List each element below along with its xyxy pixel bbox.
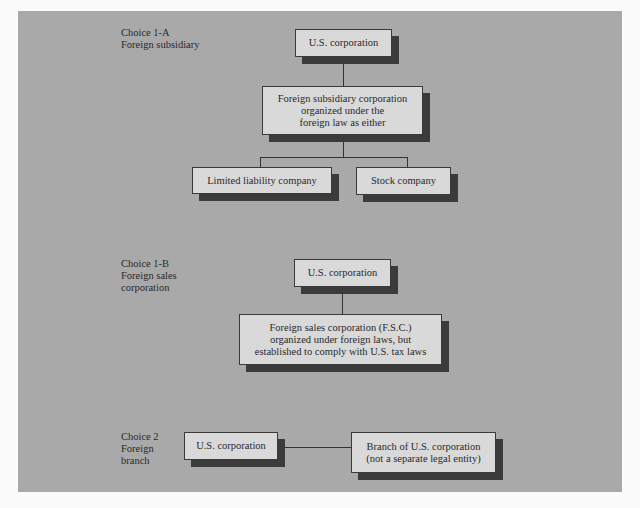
diagram-panel	[18, 11, 622, 492]
connector-line	[260, 157, 261, 167]
llc-box: Limited liability company	[192, 167, 332, 194]
foreign-subsidiary-box: Foreign subsidiary corporation organized…	[262, 86, 423, 135]
branch-box: Branch of U.S. corporation (not a separa…	[351, 432, 496, 473]
us-corporation-box-2: U.S. corporation	[184, 432, 278, 460]
connector-line	[278, 447, 351, 448]
choice-1a-label: Choice 1-A Foreign subsidiary	[121, 27, 199, 51]
choice-2-label: Choice 2 Foreign branch	[121, 431, 159, 467]
stock-company-box: Stock company	[356, 167, 451, 195]
connector-line	[407, 157, 408, 167]
choice-1b-label: Choice 1-B Foreign sales corporation	[121, 258, 177, 294]
connector-line	[260, 157, 408, 158]
us-corporation-box-1a: U.S. corporation	[295, 29, 392, 57]
us-corporation-box-1b: U.S. corporation	[294, 259, 391, 287]
fsc-box: Foreign sales corporation (F.S.C.) organ…	[239, 314, 442, 365]
